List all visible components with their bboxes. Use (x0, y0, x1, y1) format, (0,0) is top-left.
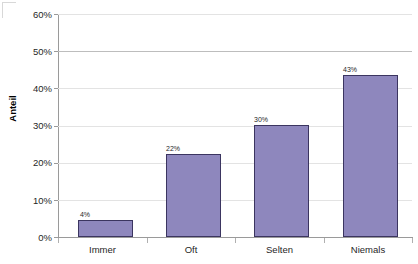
plot-area (58, 14, 412, 237)
bar-niemals[interactable] (343, 75, 398, 237)
y-axis-title: Anteil (7, 79, 18, 139)
gridline-60 (58, 14, 412, 15)
bar-selten[interactable] (254, 125, 309, 237)
y-tick-label-0: 0% (14, 233, 52, 243)
chart-frame-top-edge (2, 2, 16, 3)
x-tick-mark-3 (324, 238, 325, 243)
x-category-label-immer: Immer (58, 245, 147, 255)
y-tick-label-40: 40% (14, 84, 52, 94)
x-tick-mark-4 (412, 238, 413, 243)
x-category-label-niemals: Niemals (324, 245, 412, 255)
gridline-50 (58, 51, 412, 52)
y-tick-label-20: 20% (14, 158, 52, 168)
y-tick-label-60: 60% (14, 10, 52, 20)
bar-value-selten: 30% (234, 116, 288, 123)
bar-immer[interactable] (78, 220, 133, 237)
x-category-label-selten: Selten (235, 245, 324, 255)
bar-value-oft: 22% (146, 145, 200, 152)
bar-oft[interactable] (166, 154, 221, 237)
bar-value-niemals: 43% (323, 66, 377, 73)
y-tick-label-10: 10% (14, 196, 52, 206)
x-tick-mark-0 (58, 238, 59, 243)
chart-frame-left-edge (2, 2, 3, 18)
x-category-label-oft: Oft (147, 245, 235, 255)
x-tick-mark-1 (147, 238, 148, 243)
x-tick-mark-2 (235, 238, 236, 243)
bar-chart: 60% 50% 40% 30% 20% 10% 0% 4% 22% 30% 43… (0, 0, 418, 264)
y-tick-label-30: 30% (14, 121, 52, 131)
y-tick-label-50: 50% (14, 47, 52, 57)
bar-value-immer: 4% (58, 211, 112, 218)
